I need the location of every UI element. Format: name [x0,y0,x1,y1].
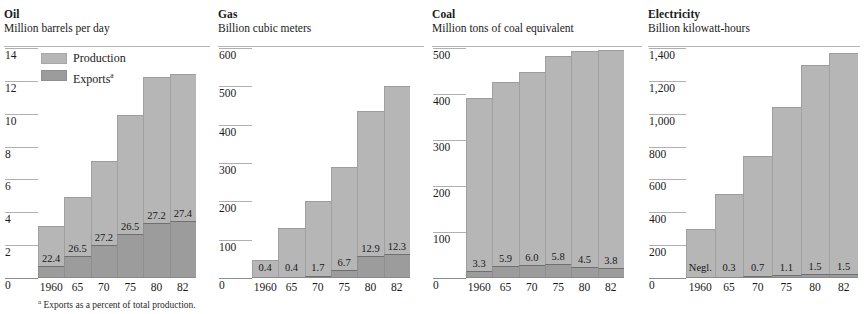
y-tick-label: 200 [649,246,666,259]
bar-group[interactable]: 27.4 [170,47,196,277]
bar-group[interactable]: 5.9 [492,47,518,277]
bar-exports[interactable] [829,274,858,277]
x-axis-label: 65 [492,280,518,294]
bar-group[interactable]: 26.5 [117,47,143,277]
bar-group[interactable]: 5.8 [545,47,571,277]
y-tick-label: 300 [219,164,236,177]
bar-exports[interactable] [801,274,830,277]
bar-group[interactable]: 3.3 [466,47,492,277]
x-axis-label: 82 [384,280,410,294]
bar-group[interactable]: 22.4 [38,47,64,277]
bar-production[interactable] [519,72,545,277]
bar-group[interactable]: 1.5 [829,47,858,277]
export-percent-label: 6.0 [519,252,545,264]
y-tick-label: 2 [5,246,11,259]
bar-group[interactable]: 6.7 [331,47,357,277]
x-axis-label: 65 [64,280,90,294]
bar-exports[interactable] [38,266,64,277]
export-percent-label: 1.1 [772,262,801,274]
y-axis-oil: 14121086420 [4,48,38,278]
bar-exports[interactable] [331,270,357,277]
export-percent-label: 4.5 [571,254,597,266]
bar-group[interactable]: 3.8 [598,47,624,277]
y-tick-label: 100 [219,241,236,254]
bar-group[interactable]: 0.7 [743,47,772,277]
bar-exports[interactable] [64,256,90,277]
bar-exports[interactable] [466,271,492,277]
bar-group[interactable]: 1.5 [801,47,830,277]
y-tick-label: 500 [219,87,236,100]
bar-exports[interactable] [545,264,571,277]
bar-group[interactable]: 12.9 [357,47,383,277]
bar-exports[interactable] [357,256,383,277]
y-axis-coal: 5004003002001000 [432,48,466,278]
y-tick-label: 300 [433,141,450,154]
bar-exports[interactable] [743,276,772,277]
x-axis-label: 80 [143,280,169,294]
export-percent-label: 27.2 [143,210,169,222]
bar-production[interactable] [772,107,801,277]
bar-group[interactable]: Negl. [686,47,715,277]
export-percent-label: 1.5 [829,261,858,273]
export-percent-label: 12.9 [357,243,383,255]
panel-subtitle-gas: Billion cubic meters [218,21,410,35]
x-axis-labels-coal: 19606570758082 [466,280,624,296]
bar-production[interactable] [571,51,597,277]
y-tick-label: 400 [433,95,450,108]
bar-exports[interactable] [143,223,169,277]
bar-group[interactable]: 6.0 [519,47,545,277]
bar-exports[interactable] [772,275,801,277]
bar-exports[interactable] [305,276,331,277]
footnote: a Exports as a percent of total producti… [38,296,196,311]
bar-group[interactable]: 1.1 [772,47,801,277]
bar-production[interactable] [466,98,492,277]
bar-group[interactable]: 27.2 [143,47,169,277]
x-axis-label: 82 [829,280,858,294]
export-percent-label: 0.3 [715,262,744,274]
y-tick-label: 600 [219,49,236,62]
panel-subtitle-electricity: Billion kilowatt-hours [648,21,858,35]
x-axis-label: 70 [743,280,772,294]
legend-swatch-production-icon [41,53,67,64]
bar-group[interactable]: 0.4 [252,47,278,277]
bar-production[interactable] [492,82,518,277]
y-axis-electricity: 1,4001,2001,0008006004002000 [648,48,686,278]
y-tick-label: 12 [5,82,17,95]
y-tick-label: 10 [5,115,17,128]
x-axis-label: 75 [331,280,357,294]
y-tick-label: 800 [649,148,666,161]
bar-exports[interactable] [117,234,143,277]
bar-group[interactable]: 4.5 [571,47,597,277]
bar-group[interactable]: 12.3 [384,47,410,277]
bar-production[interactable] [545,56,571,277]
export-percent-label: 5.8 [545,251,571,263]
bar-exports[interactable] [598,268,624,277]
plot-area-coal: 50040030020010003.35.96.05.84.53.8 [432,48,624,278]
bar-group[interactable]: 1.7 [305,47,331,277]
y-tick-label: 400 [649,213,666,226]
export-percent-label: Negl. [686,262,715,274]
bar-production[interactable] [743,156,772,277]
bar-exports[interactable] [384,254,410,278]
export-percent-label: 0.7 [743,262,772,274]
export-percent-label: 3.3 [466,258,492,270]
panel-title-coal: Coal [432,8,624,21]
y-tick-label: 0 [433,279,439,292]
y-tick-label: 1,200 [649,82,675,95]
footnote-text: Exports as a percent of total production… [43,300,195,310]
bar-exports[interactable] [170,221,196,277]
bar-production[interactable] [598,50,624,277]
panel-subtitle-coal: Million tons of coal equivalent [432,21,624,35]
bar-group[interactable]: 0.3 [715,47,744,277]
x-axis-label: 1960 [252,280,278,294]
bar-production[interactable] [801,65,830,277]
bar-exports[interactable] [571,267,597,277]
bar-group[interactable]: 0.4 [278,47,304,277]
bar-exports[interactable] [519,265,545,277]
x-axis-label: 80 [571,280,597,294]
bar-exports[interactable] [492,266,518,277]
bar-exports[interactable] [91,245,117,277]
bar-production[interactable] [829,53,858,277]
export-percent-label: 12.3 [384,241,410,253]
x-axis-baseline-oil [38,277,196,278]
